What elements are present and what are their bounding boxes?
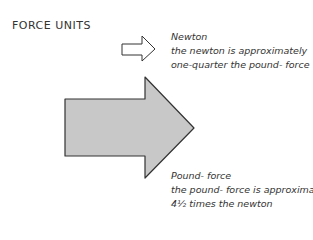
- pound-force-description-line-1: the pound- force is approximately: [171, 183, 313, 197]
- pound-force-name: Pound- force: [171, 169, 313, 183]
- pound-force-arrow-icon: [65, 77, 194, 178]
- newton-description-line-1: the newton is approximately: [171, 44, 309, 58]
- newton-arrow-icon: [122, 36, 155, 61]
- newton-description-line-2: one-quarter the pound- force: [171, 58, 309, 72]
- newton-name: Newton: [171, 30, 309, 44]
- pound-force-label: Pound- force the pound- force is approxi…: [171, 169, 313, 211]
- pound-force-description-line-2: 4½ times the newton: [171, 197, 313, 211]
- newton-label: Newton the newton is approximately one-q…: [171, 30, 309, 72]
